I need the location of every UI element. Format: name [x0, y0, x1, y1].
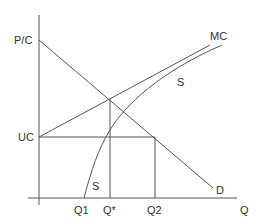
d-label: D [216, 184, 224, 196]
uc-label: UC [18, 131, 34, 143]
s-label-lower: S [92, 180, 99, 192]
economics-diagram: P/C UC MC S S D Q1 Q* Q2 Q [0, 0, 261, 223]
mc-curve [39, 45, 210, 137]
supply-curve [84, 45, 222, 198]
q1-label: Q1 [74, 204, 89, 216]
y-axis-label: P/C [14, 34, 32, 46]
s-label-upper: S [177, 76, 184, 88]
mc-label: MC [210, 30, 227, 42]
q-star-label: Q* [103, 204, 117, 216]
q2-label: Q2 [147, 204, 162, 216]
x-axis-label: Q [240, 204, 249, 216]
